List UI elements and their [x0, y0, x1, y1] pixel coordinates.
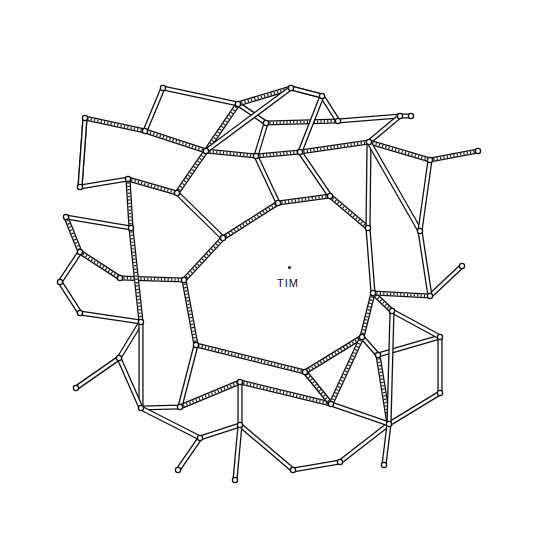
bond-edge	[420, 231, 430, 296]
hatched-bond-edge	[66, 217, 80, 252]
node-circle	[73, 385, 78, 390]
node-circle	[138, 405, 143, 410]
node-circle	[63, 214, 68, 219]
bond-edge	[145, 88, 163, 131]
bond-edge	[368, 142, 369, 228]
node-circle	[302, 369, 307, 374]
bond-edge	[389, 393, 440, 424]
bond-edge	[163, 88, 238, 104]
bond-edge	[60, 252, 80, 282]
bond-edge	[141, 408, 200, 438]
bond-edge	[76, 358, 119, 388]
node-circle	[197, 435, 202, 440]
node-circle	[232, 477, 237, 482]
bond-edge	[80, 313, 141, 322]
node-circle	[237, 422, 242, 427]
node-circle	[297, 149, 302, 154]
node-circle	[427, 157, 432, 162]
node-circle	[77, 249, 82, 254]
node-circle	[328, 401, 333, 406]
node-circle	[437, 334, 442, 339]
node-circle	[57, 279, 62, 284]
center-label: TIM	[277, 277, 299, 289]
node-circle	[417, 228, 422, 233]
node-circle	[386, 421, 391, 426]
node-circle	[160, 85, 165, 90]
node-circle	[381, 462, 386, 467]
bond-edge	[66, 217, 131, 228]
node-circle	[375, 352, 380, 357]
bond-edge	[256, 123, 266, 156]
bond-edge	[322, 96, 338, 121]
node-circle	[427, 293, 432, 298]
node-circle	[327, 193, 332, 198]
node-circle	[263, 120, 268, 125]
bond-edge	[430, 266, 462, 296]
bond-edge	[240, 425, 293, 470]
bond-edge	[178, 438, 200, 470]
node-circle	[116, 355, 121, 360]
node-circle	[397, 113, 402, 118]
bond-edge	[141, 407, 180, 408]
node-circle	[370, 290, 375, 295]
atom-nodes	[57, 85, 480, 482]
node-circle	[175, 467, 180, 472]
bond-edge	[200, 425, 240, 438]
node-circle	[319, 93, 324, 98]
network-sketch	[0, 0, 535, 549]
node-circle	[389, 308, 394, 313]
node-circle	[235, 101, 240, 106]
bond-edge	[331, 404, 389, 424]
node-circle	[193, 342, 198, 347]
node-circle	[437, 390, 442, 395]
node-circle	[366, 139, 371, 144]
hatched-bond-edge	[430, 151, 478, 160]
node-circle	[177, 404, 182, 409]
node-circle	[128, 225, 133, 230]
node-circle	[138, 319, 143, 324]
node-circle	[475, 148, 480, 153]
node-circle	[275, 200, 280, 205]
hatched-bond-edge	[184, 280, 196, 345]
bond-edge	[392, 311, 440, 337]
bond-edge	[340, 424, 389, 462]
bond-edge	[362, 337, 378, 355]
bond-edge	[60, 282, 80, 313]
node-circle	[459, 263, 464, 268]
node-circle	[77, 184, 82, 189]
node-circle	[142, 128, 147, 133]
node-circle	[337, 459, 342, 464]
node-circle	[125, 176, 130, 181]
center-dot-marker	[288, 266, 291, 269]
node-circle	[117, 275, 122, 280]
bond-edge	[80, 179, 128, 187]
node-circle	[365, 225, 370, 230]
node-circle	[181, 277, 186, 282]
node-circle	[174, 190, 179, 195]
bond-edge	[180, 345, 196, 407]
node-circle	[220, 235, 225, 240]
bond-edges	[60, 88, 478, 480]
bond-edge	[300, 152, 330, 196]
bond-edge	[256, 156, 278, 203]
bond-edge	[378, 337, 440, 355]
node-circle	[359, 334, 364, 339]
node-circle	[288, 85, 293, 90]
node-circle	[77, 310, 82, 315]
node-circle	[290, 467, 295, 472]
node-circle	[408, 113, 413, 118]
node-circle	[82, 115, 87, 120]
bond-edge	[119, 322, 141, 358]
bond-edge	[177, 193, 223, 238]
node-circle	[335, 118, 340, 123]
node-circle	[253, 153, 258, 158]
bond-edge	[420, 160, 430, 231]
node-circle	[237, 379, 242, 384]
bond-edge	[119, 358, 141, 408]
node-circle	[203, 148, 208, 153]
bond-edge	[291, 88, 322, 96]
bond-edge	[293, 462, 340, 470]
